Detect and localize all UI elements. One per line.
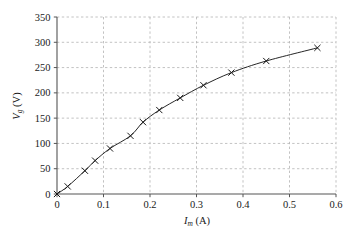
y-tick-label: 250 bbox=[35, 62, 51, 73]
x-axis-title: Im (A) bbox=[183, 215, 211, 228]
chart-figure: 00.10.20.30.40.50.6 05010015020025030035… bbox=[0, 0, 358, 238]
data-point-marker bbox=[314, 45, 320, 51]
x-tick-label: 0.2 bbox=[143, 199, 156, 210]
chart-canvas: 00.10.20.30.40.50.6 05010015020025030035… bbox=[0, 0, 358, 238]
x-tick-label: 0.5 bbox=[283, 199, 296, 210]
data-point-marker bbox=[65, 183, 71, 189]
series-curve bbox=[57, 48, 317, 194]
data-point-marker bbox=[127, 133, 133, 139]
data-point-marker bbox=[263, 58, 269, 64]
y-axis-title: Vg (V) bbox=[11, 92, 24, 120]
y-tick-label: 350 bbox=[35, 12, 51, 23]
x-tick-label: 0.3 bbox=[190, 199, 203, 210]
y-tick-label: 300 bbox=[35, 37, 51, 48]
data-point-marker bbox=[156, 107, 162, 113]
data-point-marker bbox=[228, 70, 234, 76]
data-point-marker bbox=[200, 82, 206, 88]
y-tick-labels: 050100150200250300350 bbox=[35, 12, 51, 200]
data-series-line bbox=[57, 48, 317, 194]
x-tick-label: 0 bbox=[54, 199, 59, 210]
x-tick-labels: 00.10.20.30.40.50.6 bbox=[54, 199, 342, 210]
svg-text:Vg (V): Vg (V) bbox=[11, 92, 24, 120]
tick-marks bbox=[54, 17, 336, 197]
y-tick-label: 0 bbox=[45, 189, 50, 200]
y-tick-label: 200 bbox=[35, 87, 51, 98]
grid-lines bbox=[57, 17, 336, 194]
data-point-marker bbox=[177, 95, 183, 101]
data-point-marker bbox=[107, 145, 113, 151]
y-tick-label: 50 bbox=[40, 163, 51, 174]
data-point-marker bbox=[82, 168, 88, 174]
data-point-marker bbox=[92, 158, 98, 164]
y-tick-label: 150 bbox=[35, 113, 51, 124]
y-tick-label: 100 bbox=[35, 138, 51, 149]
x-tick-label: 0.4 bbox=[236, 199, 250, 210]
x-tick-label: 0.6 bbox=[329, 199, 342, 210]
x-tick-label: 0.1 bbox=[97, 199, 110, 210]
data-point-marker bbox=[140, 119, 146, 125]
svg-text:Im (A): Im (A) bbox=[183, 215, 211, 228]
